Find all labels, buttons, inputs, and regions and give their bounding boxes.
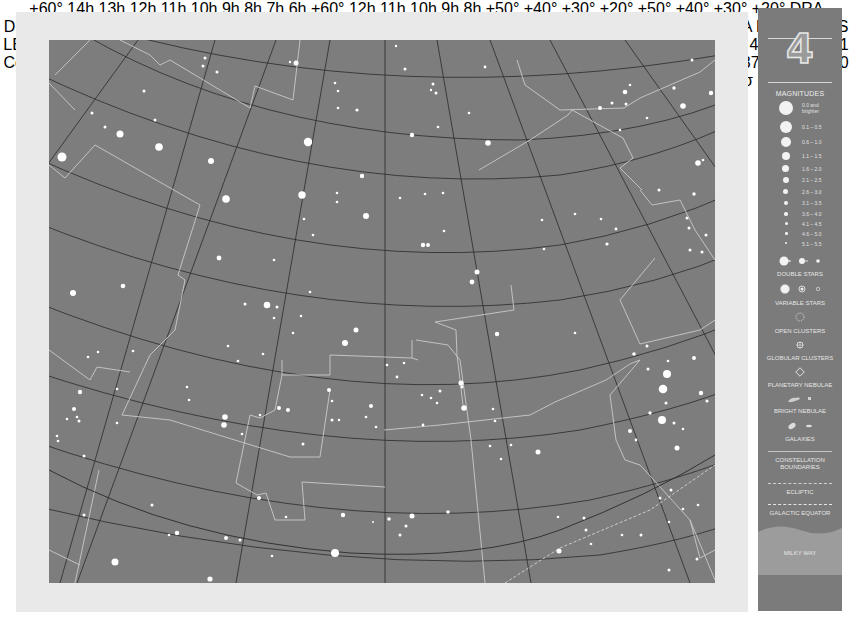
mag-dot-icon <box>783 177 789 183</box>
open-cluster-icon <box>758 311 842 323</box>
variable-stars-label: VARIABLE STARS <box>758 300 842 307</box>
mag-dot-icon <box>784 212 788 216</box>
mag-dot-icon <box>782 165 789 172</box>
mag-dot-icon <box>785 232 788 235</box>
boundary-sample-line <box>768 451 832 452</box>
mag-row-1: 0.1 – 0.5 <box>758 120 842 134</box>
mag-dot-icon <box>785 242 787 244</box>
mag-dot-icon <box>779 101 793 115</box>
magnitudes-title: MAGNITUDES <box>758 90 842 97</box>
chart-number: 4 <box>758 26 842 72</box>
milky-way-label: MILKY WAY <box>758 550 842 557</box>
galaxies-label: GALAXIES <box>758 436 842 443</box>
mag-dot-icon <box>782 152 790 160</box>
legend-rule-bottom <box>768 82 832 83</box>
mag-row-0: 0.0 and brighter <box>758 100 842 114</box>
ecliptic-label: ECLIPTIC <box>758 489 842 496</box>
globular-clusters-label: GLOBULAR CLUSTERS <box>758 355 842 362</box>
double-stars-label: DOUBLE STARS <box>758 271 842 278</box>
bright-nebula-icon <box>758 393 842 405</box>
planetary-nebulae-label: PLANETARY NEBULAE <box>758 382 842 389</box>
mag-dot-icon <box>783 189 788 194</box>
sky-area <box>49 40 715 583</box>
mag-dot-icon <box>780 121 792 133</box>
ecliptic-sample-line <box>768 483 832 484</box>
legend-sidebar: 4 MAGNITUDES 0.0 and brighter 0.1 – 0.5 … <box>758 8 842 611</box>
globular-cluster-icon <box>758 339 842 351</box>
galaxy-icon <box>758 420 842 432</box>
double-stars-icon <box>758 254 842 268</box>
mag-dot-icon <box>785 222 788 225</box>
star-chart <box>0 0 852 633</box>
variable-stars-icon <box>758 282 842 296</box>
bright-nebulae-label: BRIGHT NEBULAE <box>758 408 842 415</box>
mag-row-2: 0.6 – 1.0 <box>758 136 842 150</box>
galactic-equator-label: GALACTIC EQUATOR <box>758 510 842 517</box>
open-clusters-label: OPEN CLUSTERS <box>758 328 842 335</box>
mag-row-11: 5.1 – 5.5 <box>758 241 842 255</box>
mag-row-3: 1.1 – 1.5 <box>758 151 842 165</box>
constellation-boundaries-label-1: CONSTELLATION <box>758 457 842 464</box>
galactic-equator-sample-line <box>768 504 832 505</box>
mag-dot-icon <box>784 201 788 205</box>
constellation-boundaries-label-2: BOUNDARIES <box>758 464 842 471</box>
mag-dot-icon <box>781 137 791 147</box>
planetary-nebula-icon <box>758 366 842 378</box>
